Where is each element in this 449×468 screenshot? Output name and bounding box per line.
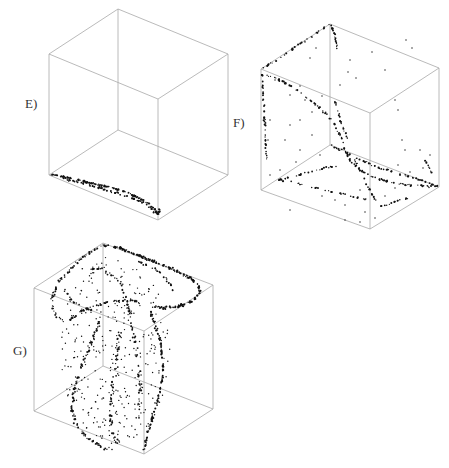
panel-e bbox=[49, 9, 228, 220]
cube-edge bbox=[158, 175, 228, 220]
cube-edge bbox=[370, 68, 439, 113]
cube-edge bbox=[370, 187, 439, 229]
cube-edge bbox=[330, 24, 439, 68]
cube-edge bbox=[118, 130, 228, 175]
cube-edge bbox=[34, 366, 103, 411]
cube-edge bbox=[49, 130, 118, 175]
attractor-points bbox=[51, 174, 161, 216]
attractor-points bbox=[50, 244, 201, 450]
cube-edge bbox=[118, 9, 228, 54]
cube-edge bbox=[144, 409, 213, 454]
cube-edge bbox=[49, 54, 158, 99]
cube-edge bbox=[34, 411, 144, 454]
panel-label-e: E) bbox=[25, 96, 37, 112]
panel-f bbox=[261, 24, 439, 229]
cube-edge bbox=[49, 175, 158, 220]
panel-label-g: G) bbox=[13, 343, 27, 359]
attractor-points bbox=[261, 24, 438, 223]
cube-edge bbox=[158, 54, 228, 99]
panel-g bbox=[34, 243, 213, 454]
cube-edge bbox=[261, 190, 370, 229]
cube-edge bbox=[261, 145, 330, 190]
cube-edge bbox=[34, 243, 103, 288]
panel-label-f: F) bbox=[233, 115, 245, 131]
cube-edge bbox=[261, 69, 370, 113]
attractor-figure bbox=[0, 0, 449, 468]
cube-edge bbox=[49, 9, 118, 54]
